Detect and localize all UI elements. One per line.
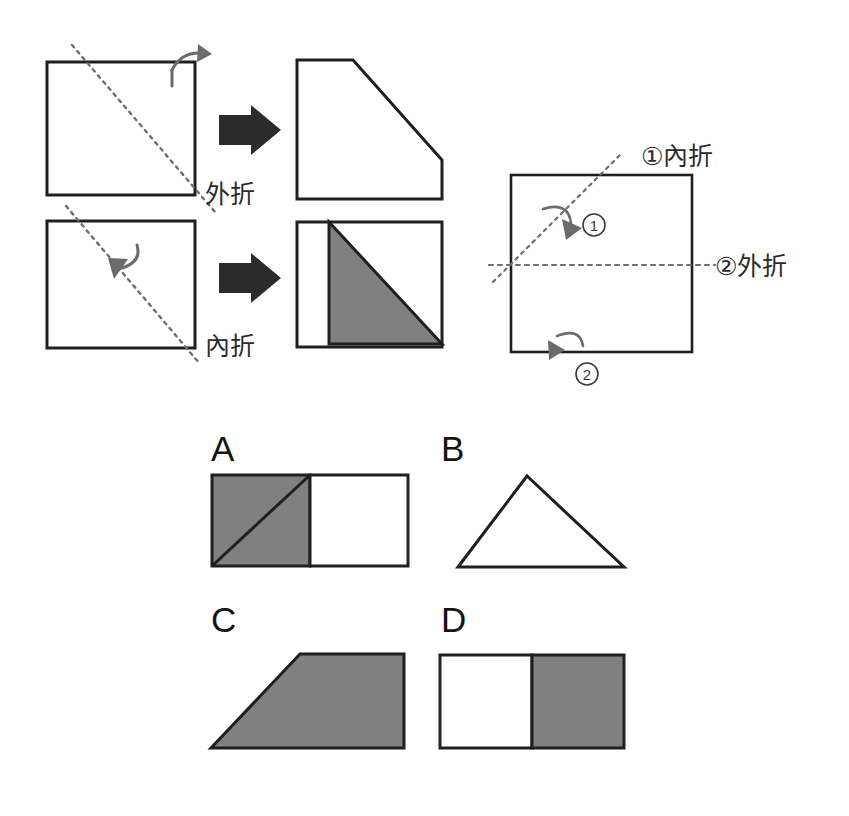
option-a-letter: A <box>211 429 235 468</box>
fold-1-number: 1 <box>590 217 598 234</box>
puzzle-canvas: 外折 內折 1 2 ①內折 ②外折 A B <box>0 0 849 816</box>
fold-1-label: ①內折 <box>641 142 713 171</box>
option-d-left-half <box>440 655 532 748</box>
option-b-letter: B <box>441 429 464 468</box>
option-d-letter: D <box>441 600 466 639</box>
option-c-letter: C <box>211 600 236 639</box>
fold-2-label: ②外折 <box>715 252 787 281</box>
fold-2-number: 2 <box>583 366 591 383</box>
inner-fold-source-square <box>47 221 195 348</box>
option-d-right-half <box>532 655 624 748</box>
outer-fold-label: 外折 <box>205 180 255 209</box>
option-a-right-half <box>310 475 408 566</box>
problem-source-square <box>511 175 692 352</box>
inner-fold-label: 內折 <box>205 332 255 361</box>
